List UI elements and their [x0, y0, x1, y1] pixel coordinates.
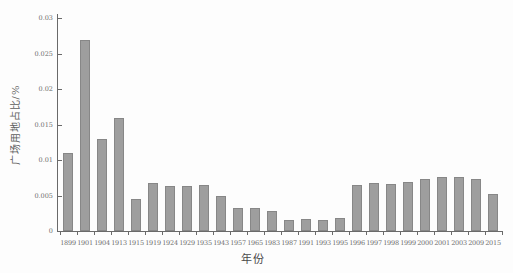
y-tick-label: 0.02	[0, 85, 53, 93]
x-tick-mark	[434, 232, 435, 235]
x-tick-label-2009: 2009	[468, 239, 484, 247]
bar-1915	[131, 199, 141, 231]
bar-1929	[182, 186, 192, 231]
bar-1901	[80, 40, 90, 231]
x-tick-mark	[145, 232, 146, 235]
x-tick-mark	[196, 232, 197, 235]
y-tick-mark	[58, 196, 62, 197]
bar-1957	[233, 208, 243, 231]
bar-1899	[63, 153, 73, 231]
x-tick-label-1915: 1915	[128, 239, 144, 247]
x-tick-label-2001: 2001	[434, 239, 450, 247]
x-tick-label-1993: 1993	[315, 239, 331, 247]
bar-1965	[250, 208, 260, 231]
x-tick-label-1924: 1924	[162, 239, 178, 247]
bar-1913	[114, 118, 124, 231]
bar-chart: 广场用地占比/% 年份 00.0050.010.0150.020.0250.03…	[0, 0, 513, 273]
x-tick-label-1901: 1901	[77, 239, 93, 247]
x-tick-label-1983: 1983	[264, 239, 280, 247]
x-tick-label-1957: 1957	[230, 239, 246, 247]
bar-1998	[386, 184, 396, 231]
y-tick-mark	[58, 89, 62, 90]
x-tick-label-1919: 1919	[145, 239, 161, 247]
bar-2015	[488, 194, 498, 231]
bar-1995	[335, 218, 345, 231]
y-tick-mark	[58, 54, 62, 55]
x-tick-label-1999: 1999	[400, 239, 416, 247]
bar-1999	[403, 182, 413, 231]
x-tick-label-1965: 1965	[247, 239, 263, 247]
x-tick-mark	[485, 232, 486, 235]
x-tick-label-1904: 1904	[94, 239, 110, 247]
x-tick-mark	[247, 232, 248, 235]
y-tick-label: 0.01	[0, 156, 53, 164]
x-tick-mark	[366, 232, 367, 235]
bar-1943	[216, 196, 226, 231]
x-tick-mark	[60, 232, 61, 235]
x-tick-mark	[77, 232, 78, 235]
bar-1983	[267, 211, 277, 231]
x-tick-mark	[162, 232, 163, 235]
x-tick-mark	[417, 232, 418, 235]
x-tick-label-1929: 1929	[179, 239, 195, 247]
x-axis-title: 年份	[241, 250, 265, 266]
x-tick-label-1935: 1935	[196, 239, 212, 247]
bar-1935	[199, 185, 209, 231]
x-tick-label-1997: 1997	[366, 239, 382, 247]
x-tick-label-1987: 1987	[281, 239, 297, 247]
bar-1991	[301, 219, 311, 231]
x-tick-mark	[468, 232, 469, 235]
y-tick-label: 0	[0, 227, 53, 235]
x-tick-label-1913: 1913	[111, 239, 127, 247]
bar-2009	[471, 179, 481, 231]
x-tick-mark	[94, 232, 95, 235]
x-tick-mark	[332, 232, 333, 235]
y-axis-line	[57, 14, 58, 231]
x-tick-label-2003: 2003	[451, 239, 467, 247]
x-tick-mark	[383, 232, 384, 235]
bar-1996	[352, 185, 362, 231]
bar-1997	[369, 183, 379, 231]
x-tick-mark	[349, 232, 350, 235]
y-tick-label: 0.015	[0, 121, 53, 129]
x-tick-mark	[128, 232, 129, 235]
bar-1919	[148, 183, 158, 231]
x-tick-mark	[451, 232, 452, 235]
x-tick-mark	[281, 232, 282, 235]
x-tick-label-1899: 1899	[60, 239, 76, 247]
x-tick-label-2000: 2000	[417, 239, 433, 247]
x-tick-label-1943: 1943	[213, 239, 229, 247]
y-tick-label: 0.025	[0, 50, 53, 58]
bar-1993	[318, 220, 328, 231]
x-tick-mark	[264, 232, 265, 235]
y-tick-mark	[58, 125, 62, 126]
bar-1904	[97, 139, 107, 231]
bar-1987	[284, 220, 294, 231]
bar-2000	[420, 179, 430, 231]
y-tick-label: 0.03	[0, 14, 53, 22]
x-tick-mark	[400, 232, 401, 235]
bar-2003	[454, 177, 464, 231]
x-tick-mark	[213, 232, 214, 235]
y-tick-mark	[58, 160, 62, 161]
x-tick-mark	[315, 232, 316, 235]
y-tick-label: 0.005	[0, 192, 53, 200]
x-tick-label-1995: 1995	[332, 239, 348, 247]
x-tick-mark	[179, 232, 180, 235]
x-tick-label-1998: 1998	[383, 239, 399, 247]
y-tick-mark	[58, 18, 62, 19]
x-tick-mark	[230, 232, 231, 235]
x-tick-mark	[298, 232, 299, 235]
x-tick-mark	[502, 232, 503, 235]
x-tick-mark	[111, 232, 112, 235]
bar-1924	[165, 186, 175, 231]
x-tick-label-1991: 1991	[298, 239, 314, 247]
bar-2001	[437, 177, 447, 231]
x-tick-label-2015: 2015	[485, 239, 501, 247]
x-tick-label-1996: 1996	[349, 239, 365, 247]
